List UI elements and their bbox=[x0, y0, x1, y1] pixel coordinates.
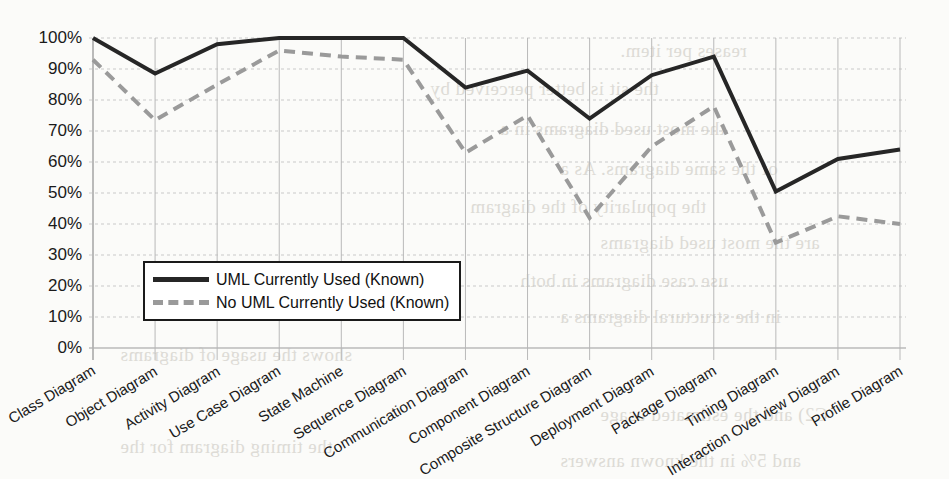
y-axis-tick-label: 100% bbox=[12, 29, 82, 46]
chart-legend: UML Currently Used (Known) No UML Curren… bbox=[143, 261, 461, 321]
y-axis-tick-label: 10% bbox=[12, 308, 82, 325]
legend-item-solid: UML Currently Used (Known) bbox=[153, 268, 449, 291]
y-axis-tick-label: 0% bbox=[12, 339, 82, 356]
legend-item-dashed: No UML Currently Used (Known) bbox=[153, 291, 449, 314]
legend-key-solid-line-icon bbox=[153, 277, 209, 282]
series-line-1 bbox=[93, 38, 900, 191]
y-axis-tick-label: 50% bbox=[12, 184, 82, 201]
y-axis-tick-label: 60% bbox=[12, 153, 82, 170]
y-axis-tick-label: 40% bbox=[12, 215, 82, 232]
y-axis-tick-label: 30% bbox=[12, 246, 82, 263]
legend-label: No UML Currently Used (Known) bbox=[216, 294, 449, 312]
y-axis-tick-label: 80% bbox=[12, 91, 82, 108]
y-axis-tick-label: 90% bbox=[12, 60, 82, 77]
y-axis-tick-label: 20% bbox=[12, 277, 82, 294]
y-axis-tick-label: 70% bbox=[12, 122, 82, 139]
legend-label: UML Currently Used (Known) bbox=[216, 271, 424, 289]
legend-key-dashed-line-icon bbox=[153, 300, 209, 305]
